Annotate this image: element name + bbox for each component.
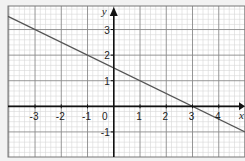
y-tick-label: -1: [101, 127, 110, 138]
y-tick-label: 3: [104, 25, 110, 36]
y-tick-label: 1: [104, 76, 110, 87]
y-tick-label: 2: [104, 50, 110, 61]
x-tick-label: 1: [136, 111, 142, 122]
x-tick-label: -1: [82, 111, 91, 122]
x-tick-label: 2: [162, 111, 168, 122]
x-axis-label: x: [238, 109, 244, 121]
x-tick-label: -3: [30, 111, 39, 122]
coordinate-plane: -3-2-101234-1123 x y: [0, 0, 245, 161]
x-tick-label: 0: [102, 111, 108, 122]
y-axis-label: y: [101, 5, 107, 17]
plot-background: [8, 6, 245, 157]
x-tick-label: 3: [189, 111, 195, 122]
x-tick-label: -2: [56, 111, 65, 122]
x-tick-label: 4: [215, 111, 221, 122]
